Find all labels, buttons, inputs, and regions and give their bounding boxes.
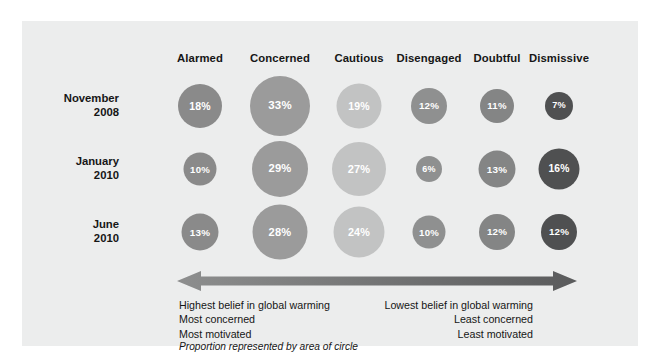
bubble-value-label: 16% <box>548 164 569 174</box>
column-header-dismissive: Dismissive <box>529 52 589 64</box>
caption-left-line-1: Highest belief in global warming <box>179 298 330 312</box>
caption-left-line-2: Most concerned <box>179 312 330 326</box>
bubble-value-label: 12% <box>487 227 507 237</box>
row-label-june-2010: June2010 <box>93 218 119 245</box>
caption-left: Highest belief in global warming Most co… <box>179 298 330 341</box>
bubble-value-label: 29% <box>269 163 292 174</box>
bubble-disengaged-row-3: 10% <box>413 216 446 249</box>
bubble-value-label: 10% <box>419 227 439 237</box>
row-label-year: 2010 <box>93 232 119 246</box>
belief-spectrum-arrow <box>177 270 577 292</box>
row-label-month: January <box>76 155 119 169</box>
bubble-value-label: 11% <box>487 101 506 111</box>
bubble-doubtful-row-2: 13% <box>479 151 516 188</box>
bubble-chart-figure: AlarmedConcernedCautiousDisengagedDoubtf… <box>0 0 660 363</box>
bubble-doubtful-row-3: 12% <box>479 214 515 250</box>
bubble-alarmed-row-2: 10% <box>184 153 217 186</box>
bubble-dismissive-row-1: 7% <box>545 92 573 120</box>
bubble-value-label: 7% <box>552 101 566 110</box>
bubble-value-label: 6% <box>422 165 435 174</box>
bubble-value-label: 10% <box>190 164 210 174</box>
bubble-value-label: 33% <box>268 100 292 112</box>
bubble-concerned-row-3: 28% <box>253 205 308 260</box>
bubble-cautious-row-1: 19% <box>337 84 382 129</box>
bubble-value-label: 27% <box>348 164 371 175</box>
proportion-note: Proportion represented by area of circle <box>179 340 358 354</box>
caption-right-line-2: Least concerned <box>384 312 533 326</box>
row-label-month: June <box>93 218 119 232</box>
bubble-value-label: 24% <box>348 227 370 238</box>
bubble-disengaged-row-1: 12% <box>411 88 447 124</box>
caption-left-line-3: Most motivated <box>179 327 330 341</box>
bubble-disengaged-row-2: 6% <box>416 156 442 182</box>
row-label-year: 2008 <box>64 106 119 120</box>
row-label-january-2010: January2010 <box>76 155 119 182</box>
column-header-concerned: Concerned <box>250 52 310 64</box>
bubble-cautious-row-3: 24% <box>334 207 385 258</box>
row-label-month: November <box>64 92 119 106</box>
bubble-alarmed-row-1: 18% <box>178 84 222 128</box>
chart-panel: AlarmedConcernedCautiousDisengagedDoubtf… <box>22 21 638 346</box>
caption-right: Lowest belief in global warming Least co… <box>384 298 533 341</box>
bubble-value-label: 19% <box>348 101 370 112</box>
column-header-cautious: Cautious <box>334 52 383 64</box>
bubble-value-label: 28% <box>269 226 292 237</box>
bubble-value-label: 18% <box>189 101 211 112</box>
bubble-concerned-row-2: 29% <box>252 141 308 197</box>
bubble-concerned-row-1: 33% <box>250 76 310 136</box>
caption-right-line-1: Lowest belief in global warming <box>384 298 533 312</box>
bubble-value-label: 13% <box>190 227 210 237</box>
bubble-cautious-row-2: 27% <box>332 142 386 196</box>
row-label-year: 2010 <box>76 169 119 183</box>
bubble-alarmed-row-3: 13% <box>182 214 219 251</box>
bubble-doubtful-row-1: 11% <box>480 89 514 123</box>
bubble-dismissive-row-3: 12% <box>541 214 577 250</box>
column-header-alarmed: Alarmed <box>177 52 223 64</box>
column-header-disengaged: Disengaged <box>396 52 461 64</box>
column-header-doubtful: Doubtful <box>473 52 520 64</box>
bubble-value-label: 13% <box>487 164 507 174</box>
bubble-value-label: 12% <box>549 227 569 237</box>
bubble-value-label: 12% <box>419 101 439 111</box>
row-label-november-2008: November2008 <box>64 92 119 119</box>
caption-right-line-3: Least motivated <box>384 327 533 341</box>
bubble-dismissive-row-2: 16% <box>539 149 580 190</box>
